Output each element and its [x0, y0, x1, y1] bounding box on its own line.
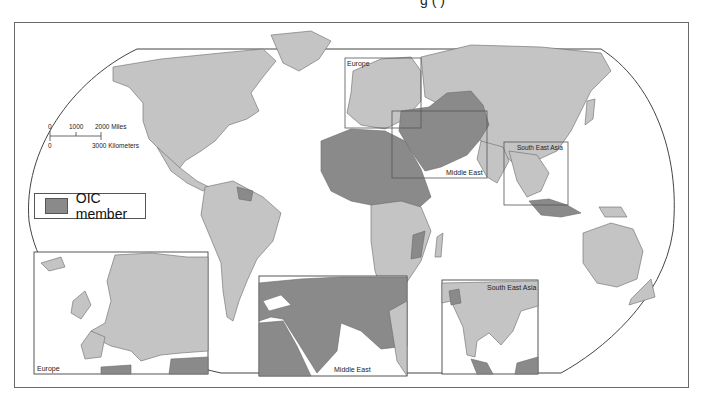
scale-miles-2000: 2000 Miles	[95, 123, 127, 130]
japan	[585, 99, 595, 125]
scale-km-3000: 3000 Kilometers	[92, 142, 140, 149]
middle-east-frame-label: Middle East	[446, 169, 483, 176]
sea-inset-label: South East Asia	[487, 284, 537, 291]
europe-inset-label: Europe	[37, 365, 60, 373]
scale-miles-0: 0	[48, 123, 52, 130]
australia	[583, 223, 643, 287]
madagascar	[435, 233, 443, 257]
indonesia-malaysia-oic	[529, 199, 581, 217]
se-asia	[509, 151, 549, 197]
legend-label-oic: OIC member	[76, 190, 145, 222]
middle-east-inset-label: Middle East	[334, 366, 371, 373]
legend-swatch-oic	[45, 198, 68, 214]
guyana-suriname-oic	[237, 187, 253, 201]
scale-km-0: 0	[48, 142, 52, 149]
legend: OIC member	[34, 193, 146, 219]
sea-inset: South East Asia	[442, 280, 538, 374]
top-caption-fragment: g ( )	[420, 0, 445, 8]
greenland	[271, 31, 331, 71]
sea-frame-label: South East Asia	[517, 144, 563, 151]
north-america	[113, 49, 276, 169]
map-frame: Europe Middle East South East Asia 0 100…	[14, 22, 689, 388]
new-zealand	[629, 279, 655, 305]
scale-miles-1000: 1000	[69, 123, 84, 130]
scale-bar: 0 1000 2000 Miles 0 3000 Kilometers	[48, 123, 140, 149]
middle-east-inset: Middle East	[259, 276, 407, 376]
europe-inset: Europe	[34, 252, 208, 374]
papua	[599, 207, 627, 217]
europe-frame-label: Europe	[347, 60, 370, 68]
